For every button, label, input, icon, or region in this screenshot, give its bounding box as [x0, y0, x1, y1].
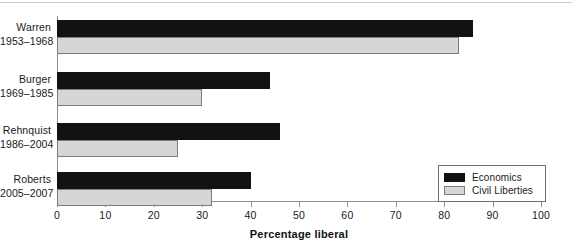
legend-label-economics: Economics: [472, 172, 522, 183]
category-name: Rehnquist: [0, 124, 51, 138]
category-years: 1986–2004: [0, 138, 51, 152]
x-tick-label-60: 60: [341, 209, 353, 221]
bar-economics-warren: [57, 20, 473, 37]
bar-civil-liberties-warren: [57, 37, 459, 54]
category-label-warren: Warren1953–1968: [0, 21, 51, 48]
category-label-roberts: Roberts2005–2007: [0, 173, 51, 200]
x-tick-label-70: 70: [390, 209, 402, 221]
x-tick-mark-100: [541, 202, 542, 207]
legend-swatch-economics-icon: [444, 173, 465, 182]
category-label-rehnquist: Rehnquist1986–2004: [0, 124, 51, 151]
x-tick-label-40: 40: [245, 209, 257, 221]
x-tick-label-80: 80: [438, 209, 450, 221]
x-tick-mark-80: [444, 202, 445, 207]
category-name: Burger: [0, 73, 51, 87]
bar-economics-roberts: [57, 172, 251, 189]
x-tick-mark-70: [396, 202, 397, 207]
bar-civil-liberties-burger: [57, 89, 202, 106]
legend-item-civil-liberties: Civil Liberties: [444, 184, 540, 196]
x-tick-label-30: 30: [196, 209, 208, 221]
bar-civil-liberties-rehnquist: [57, 140, 178, 157]
bar-economics-burger: [57, 72, 270, 89]
chart-legend: Economics Civil Liberties: [438, 165, 546, 202]
x-tick-mark-40: [251, 202, 252, 207]
scan-artifact-line: [0, 2, 572, 3]
x-tick-mark-60: [347, 202, 348, 207]
x-axis-title: Percentage liberal: [57, 228, 541, 240]
category-name: Roberts: [0, 173, 51, 187]
x-tick-label-20: 20: [148, 209, 160, 221]
bar-civil-liberties-roberts: [57, 189, 212, 206]
category-years: 1953–1968: [0, 35, 51, 49]
category-years: 1969–1985: [0, 87, 51, 101]
bar-chart: 0102030405060708090100 Warren1953–1968Bu…: [0, 0, 572, 252]
legend-item-economics: Economics: [444, 171, 540, 183]
legend-label-civil-liberties: Civil Liberties: [472, 185, 533, 196]
x-tick-mark-50: [299, 202, 300, 207]
category-years: 2005–2007: [0, 187, 51, 201]
category-label-burger: Burger1969–1985: [0, 73, 51, 100]
x-tick-label-50: 50: [293, 209, 305, 221]
x-tick-label-100: 100: [532, 209, 550, 221]
x-tick-label-10: 10: [99, 209, 111, 221]
x-tick-label-0: 0: [54, 209, 60, 221]
bar-economics-rehnquist: [57, 123, 280, 140]
x-tick-mark-90: [493, 202, 494, 207]
legend-swatch-civil-liberties-icon: [444, 186, 465, 195]
category-name: Warren: [0, 21, 51, 35]
x-tick-label-90: 90: [487, 209, 499, 221]
